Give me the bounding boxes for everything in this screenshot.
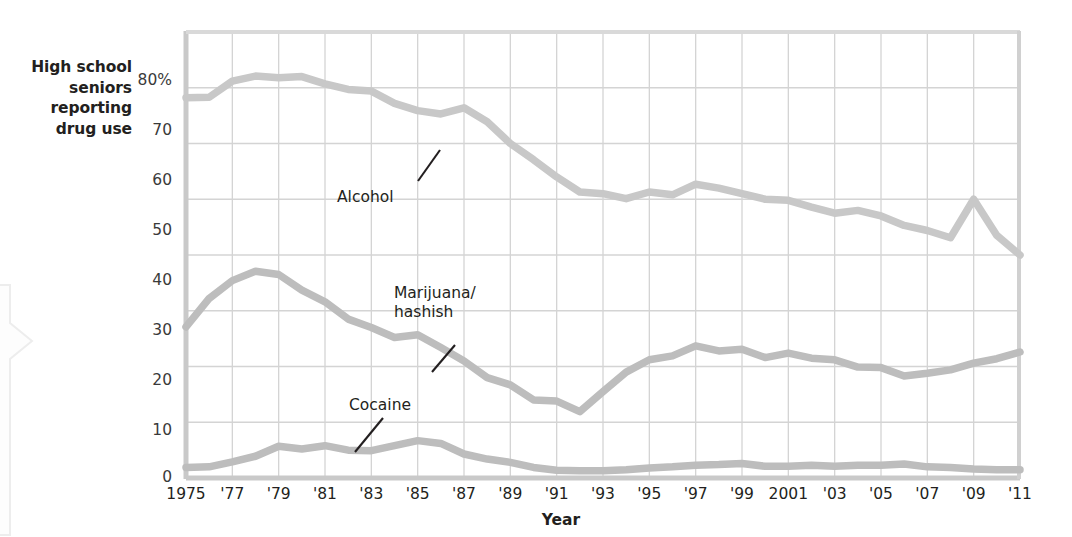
series-label-line: Marijuana/ [394, 284, 476, 303]
series-label-alcohol: Alcohol [337, 188, 394, 207]
x-axis-title: Year [0, 511, 1072, 529]
x-tick-label: '11 [990, 487, 1050, 503]
alcohol-leader-line [418, 150, 440, 181]
series-label-line: hashish [394, 303, 476, 322]
series-label-cocaine: Cocaine [349, 396, 411, 415]
series-label-marijuana: Marijuana/hashish [394, 284, 476, 322]
gridlines [186, 32, 1020, 478]
chart-plot-area [0, 0, 1072, 537]
x-axis-title-text: Year [542, 511, 580, 529]
drug-use-line-chart-figure: High schoolseniorsreportingdrug use 80% … [0, 0, 1072, 537]
